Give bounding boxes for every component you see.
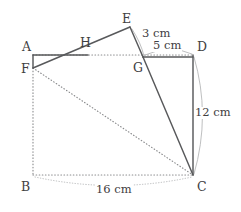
edge-G-C (143, 57, 193, 175)
vertex-label-A: A (22, 41, 31, 54)
vertex-label-H: H (80, 37, 91, 50)
dimension-label-BC: 16 cm (95, 184, 133, 196)
edge-F-C (33, 68, 193, 175)
dimension-label-GD: 5 cm (152, 40, 182, 52)
vertex-label-F: F (21, 63, 30, 76)
dimension-label-DC: 12 cm (194, 107, 232, 119)
vertex-label-C: C (197, 181, 207, 194)
vertex-label-D: D (197, 41, 207, 54)
vertex-label-B: B (21, 181, 30, 194)
vertex-label-E: E (122, 13, 131, 26)
vertex-label-G: G (133, 62, 143, 75)
geometry-figure: A B C D E F G H 3 cm 5 cm 12 cm 16 cm (0, 0, 241, 212)
